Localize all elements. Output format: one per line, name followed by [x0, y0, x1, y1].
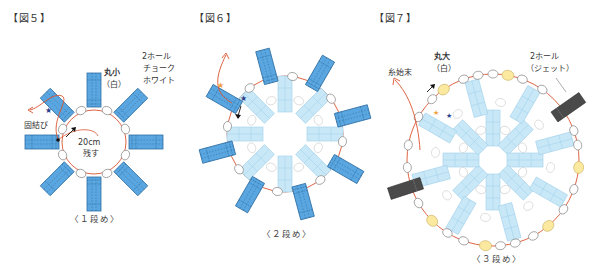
svg-text:★: ★ — [45, 106, 52, 115]
label-knot: 固結び — [24, 121, 48, 131]
figure-7-caption: 〈３段め〉 — [472, 252, 522, 264]
label-thread-end: 糸始末 — [388, 68, 412, 78]
label-leave: 残す — [83, 149, 99, 159]
label-leave-length: 20cm — [78, 138, 100, 148]
label-bead-small-color: （白） — [102, 80, 126, 90]
svg-text:★: ★ — [217, 81, 224, 90]
svg-text:★: ★ — [446, 112, 452, 120]
svg-text:★: ★ — [240, 94, 247, 103]
label-two-hole-jet-color: （ジェット） — [526, 64, 574, 74]
figure-6-diagram: ★ ★ — [199, 48, 371, 220]
label-two-hole-jet: 2ホール — [530, 52, 559, 62]
label-two-hole-color-2: ホワイト — [143, 76, 175, 86]
figure-7-diagram: ★ ★ — [387, 69, 585, 251]
label-two-hole-color-1: チョーク — [143, 64, 175, 74]
figure-6-caption: 〈２段め〉 — [262, 227, 312, 239]
label-bead-large: 丸大 — [434, 52, 450, 62]
label-bead-small: 丸小 — [104, 68, 120, 78]
figure-5-caption: 〈１段め〉 — [70, 212, 120, 224]
svg-text:★: ★ — [433, 109, 439, 117]
label-bead-large-color: （白） — [432, 64, 456, 74]
label-two-hole: 2ホール — [142, 52, 171, 62]
